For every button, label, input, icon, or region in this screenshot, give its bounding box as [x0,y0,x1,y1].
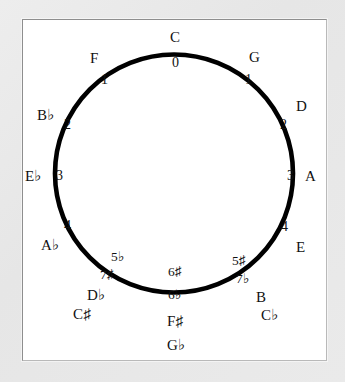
accidental-count-aflat: 4 [64,219,71,233]
circle-of-fifths-figure: C 0 G 1 D 2 A 3 E 4 5♯ 7♭ B C♭ 6♯ 6♭ F♯ … [0,0,345,382]
key-label-d-flat: D♭ [87,288,105,303]
key-label-c-sharp: C♯ [73,307,91,322]
key-label-a-flat: A♭ [41,238,59,253]
accidental-count-a: 3 [287,169,294,183]
accidental-count-g: 1 [245,73,252,87]
accidental-count-d: 2 [280,118,287,132]
key-label-f: F [90,51,99,66]
key-label-e: E [296,240,305,255]
accidental-count-dflat: 5♭ [111,250,125,264]
key-label-f-sharp: F♯ [167,314,183,329]
accidental-count-f: 1 [101,73,108,87]
accidental-count-eflat: 3 [56,169,63,183]
key-label-e-flat: E♭ [25,169,42,184]
accidental-count-b-flat: 7♭ [236,272,250,286]
key-label-b: B [256,290,266,305]
key-label-c-flat: C♭ [261,308,278,323]
accidental-count-bflat: 2 [64,118,71,132]
accidental-count-gflat: 6♭ [168,288,182,302]
key-label-g-flat: G♭ [167,338,185,353]
fifths-circle-outline [55,55,293,293]
key-label-b-flat: B♭ [37,108,54,123]
accidental-count-c: 0 [172,56,179,70]
accidental-count-b-sharp: 5♯ [232,254,246,268]
key-label-a: A [305,169,316,184]
key-label-g: G [249,50,260,65]
key-label-c: C [170,30,180,45]
accidental-count-fsharp: 6♯ [168,265,182,279]
accidental-count-csharp: 7♯ [100,268,114,282]
key-label-d: D [296,99,307,114]
accidental-count-e: 4 [281,220,288,234]
